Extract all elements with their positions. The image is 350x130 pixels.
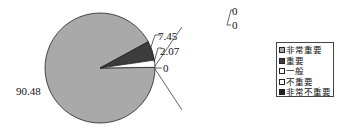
label-very-unimportant-b: 0 [232, 19, 238, 31]
label-average: 2.07 [160, 45, 180, 57]
label-very-important: 90.48 [16, 85, 41, 97]
leader-line-long-down [155, 69, 182, 110]
legend-item: 非常不重要 [279, 87, 333, 98]
legend-label: 重要 [286, 56, 304, 66]
label-unimportant: 0 [163, 62, 169, 74]
legend-label: 非常不重要 [286, 87, 331, 97]
legend-item: 非常重要 [279, 45, 333, 56]
legend-swatch-icon [279, 68, 285, 74]
label-very-unimportant-a: 0 [232, 5, 238, 17]
legend-swatch-icon [279, 89, 285, 95]
legend-item: 不重要 [279, 77, 333, 88]
legend-label: 不重要 [286, 77, 313, 87]
legend-label: 非常重要 [286, 45, 322, 55]
leader-line-floating [227, 10, 231, 25]
legend-label: 一般 [286, 66, 304, 76]
label-important: 7.45 [158, 30, 178, 42]
chart-legend: 非常重要 重要 一般 不重要 非常不重要 [276, 42, 334, 97]
legend-item: 重要 [279, 56, 333, 67]
legend-swatch-icon [279, 47, 285, 53]
legend-swatch-icon [279, 79, 285, 85]
legend-item: 一般 [279, 66, 333, 77]
legend-swatch-icon [279, 58, 285, 64]
